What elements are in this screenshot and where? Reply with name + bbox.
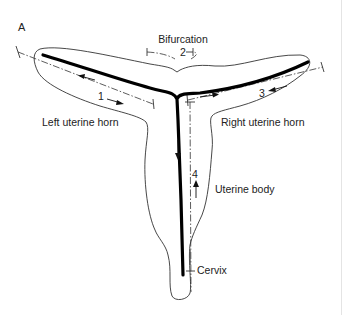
right-horn-axis-end-tick [321, 62, 324, 72]
measurement-axes [16, 46, 324, 292]
direction-arrows [78, 74, 287, 198]
uterus-outline [34, 48, 310, 300]
bifurcation-label: Bifurcation [158, 33, 208, 45]
arrow-head [268, 87, 276, 92]
segment-2-number: 2 [180, 46, 186, 58]
bifurcation-bracket [147, 48, 197, 59]
uterus-diagram: A Bifurcation 2 [0, 0, 342, 315]
diagram-canvas: A Bifurcation 2 [0, 0, 342, 315]
uterine-body-label: Uterine body [215, 183, 275, 195]
left-horn-axis-start-tick [16, 46, 20, 58]
right-horn-axis-start-tick [187, 95, 188, 106]
right-horn-label: Right uterine horn [221, 116, 305, 128]
segment-3-number: 3 [259, 87, 265, 99]
lumen-line [43, 55, 308, 275]
left-horn-axis-end-tick [153, 99, 154, 109]
segment-4-number: 4 [192, 168, 198, 180]
panel-label: A [18, 21, 26, 33]
left-horn-label: Left uterine horn [42, 116, 119, 128]
left-horn-axis [18, 52, 153, 104]
arrow-head [193, 180, 199, 187]
arrow-head [116, 100, 124, 105]
arrow-head [78, 74, 85, 79]
segment-1-number: 1 [98, 90, 104, 102]
cervix-label: Cervix [197, 264, 228, 276]
